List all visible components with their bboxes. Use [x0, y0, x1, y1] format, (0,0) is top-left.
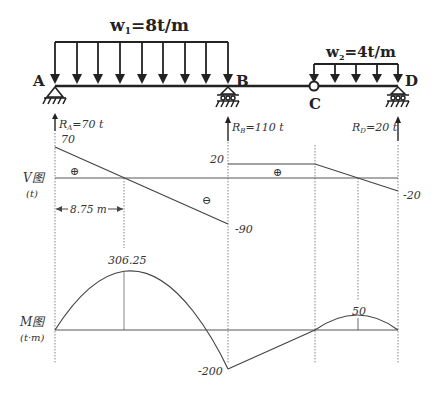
dimension-label: 8.75 m	[70, 203, 107, 215]
moment-value-local: 50	[352, 305, 366, 318]
dotted-guides	[55, 133, 398, 363]
shear-value-70: 70	[61, 133, 75, 146]
shear-unit: (t)	[26, 188, 38, 199]
reaction-b: RB=110 t	[225, 116, 284, 141]
moment-unit: (t·m)	[20, 332, 45, 343]
svg-text:RB=110 t: RB=110 t	[231, 121, 284, 135]
positive-sign-icon: ⊕	[70, 165, 79, 178]
shear-axis-label: V图	[23, 171, 46, 185]
dimension-8-75m: 8.75 m	[56, 203, 123, 215]
reaction-a: RA=70 t	[52, 113, 104, 132]
distributed-load-w2: w2=4t/m	[309, 43, 403, 83]
point-label-a: A	[32, 72, 45, 90]
pin-support-a-icon	[43, 87, 66, 104]
beam-diagram: w1=8t/m w2=4t/m	[0, 0, 439, 397]
svg-text:RA=70 t: RA=70 t	[58, 118, 104, 132]
moment-value-min: -200	[198, 365, 223, 378]
point-label-c: C	[309, 95, 321, 113]
shear-diagram: V图 (t) 70 -90 20 -20 ⊕ ⊖ ⊕ 8.75 m	[23, 133, 421, 236]
distributed-load-w1: w1=8t/m	[50, 15, 233, 84]
negative-sign-icon: ⊖	[202, 194, 211, 207]
shear-value-minus20: -20	[403, 189, 421, 202]
shear-value-minus90: -90	[235, 223, 253, 236]
shear-value-20: 20	[209, 153, 224, 166]
point-label-d: D	[405, 72, 418, 90]
point-label-b: B	[236, 72, 249, 90]
hinge-c-icon	[310, 82, 319, 91]
roller-support-b-icon	[216, 87, 239, 107]
load-label-w2: w2=4t/m	[325, 43, 396, 62]
svg-text:RD=20 t: RD=20 t	[351, 121, 398, 135]
moment-value-max: 306.25	[108, 254, 147, 267]
moment-diagram: M图 (t·m) 306.25 -200 50	[19, 254, 398, 378]
positive-sign-icon: ⊕	[273, 166, 282, 179]
moment-axis-label: M图	[19, 315, 46, 329]
reaction-d: RD=20 t	[351, 116, 401, 141]
load-label-w1: w1=8t/m	[109, 15, 189, 36]
roller-support-d-icon	[386, 87, 409, 107]
